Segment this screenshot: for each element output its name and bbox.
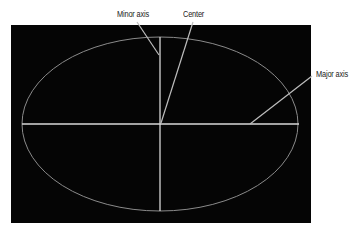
major-axis-label: Major axis [316,69,348,79]
diagram-canvas [0,0,360,234]
minor-axis-label: Minor axis [117,9,149,19]
ellipse-diagram: Minor axis Center Major axis [0,0,360,234]
center-label: Center [183,9,204,19]
